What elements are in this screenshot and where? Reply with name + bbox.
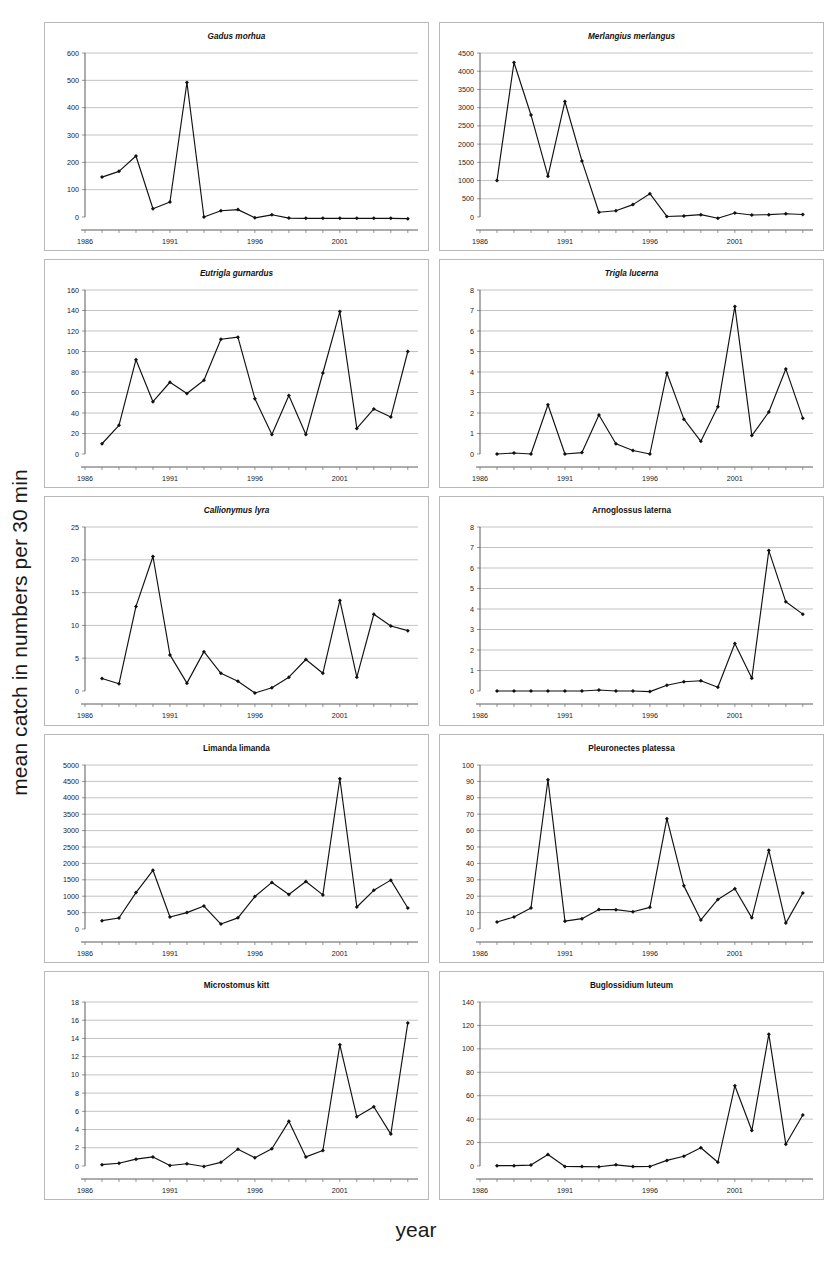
- y-tick-label: 16: [71, 1016, 79, 1025]
- y-tick-label: 80: [466, 793, 474, 802]
- series-line: [497, 307, 803, 455]
- y-tick-label: 120: [67, 327, 79, 336]
- data-point-marker: [648, 690, 652, 694]
- data-point-marker: [338, 310, 342, 314]
- y-tick-label: 0: [75, 1161, 79, 1170]
- data-point-marker: [338, 1043, 342, 1047]
- data-point-marker: [648, 905, 652, 909]
- y-tick-label: 100: [67, 185, 79, 194]
- data-point-marker: [168, 1163, 172, 1167]
- data-point-marker: [202, 1164, 206, 1168]
- y-tick-label: 20: [466, 1138, 474, 1147]
- y-tick-label: 100: [67, 347, 79, 356]
- data-point-marker: [202, 215, 206, 219]
- data-point-marker: [580, 1164, 584, 1168]
- x-tick-label: 1996: [642, 711, 658, 720]
- x-axis-label: year: [0, 1218, 832, 1242]
- y-tick-label: 12: [71, 1052, 79, 1061]
- y-tick-label: 2: [470, 409, 474, 418]
- x-tick-label: 1996: [247, 711, 263, 720]
- data-point-marker: [304, 1155, 308, 1159]
- data-point-marker: [767, 549, 771, 553]
- data-point-marker: [563, 452, 567, 456]
- chart-title: Eutrigla gurnardus: [200, 269, 274, 278]
- chart-panel: Microstomus kitt024681012141618198619911…: [44, 971, 429, 1200]
- data-point-marker: [270, 433, 274, 437]
- series-line: [102, 83, 408, 219]
- x-tick-label: 1996: [642, 949, 658, 958]
- y-tick-label: 15: [71, 589, 79, 598]
- y-tick-label: 3000: [63, 826, 79, 835]
- data-point-marker: [495, 689, 499, 693]
- y-tick-label: 0: [75, 213, 79, 222]
- data-point-marker: [733, 1084, 737, 1088]
- data-point-marker: [733, 211, 737, 215]
- chart-title: Limanda limanda: [203, 744, 270, 753]
- y-tick-label: 60: [71, 388, 79, 397]
- y-tick-label: 8: [75, 1089, 79, 1098]
- y-tick-label: 140: [67, 306, 79, 315]
- y-tick-label: 2500: [458, 121, 474, 130]
- data-point-marker: [321, 216, 325, 220]
- y-tick-label: 6: [470, 564, 474, 573]
- x-tick-label: 1991: [162, 474, 178, 483]
- data-point-marker: [682, 214, 686, 218]
- data-point-marker: [495, 920, 499, 924]
- data-point-marker: [546, 174, 550, 178]
- x-tick-label: 2001: [332, 237, 348, 246]
- data-point-marker: [168, 200, 172, 204]
- data-point-marker: [372, 216, 376, 220]
- data-point-marker: [631, 449, 635, 453]
- data-point-marker: [529, 689, 533, 693]
- data-point-marker: [134, 605, 138, 609]
- data-point-marker: [529, 452, 533, 456]
- x-tick-label: 1986: [77, 237, 93, 246]
- y-tick-label: 70: [466, 809, 474, 818]
- data-point-marker: [784, 367, 788, 371]
- y-tick-label: 0: [470, 924, 474, 933]
- data-point-marker: [767, 1032, 771, 1036]
- data-point-marker: [597, 1164, 601, 1168]
- y-tick-label: 25: [71, 523, 79, 532]
- data-point-marker: [665, 371, 669, 375]
- data-point-marker: [236, 335, 240, 339]
- x-tick-label: 1996: [247, 237, 263, 246]
- y-tick-label: 6: [470, 327, 474, 336]
- y-tick-label: 0: [75, 924, 79, 933]
- data-point-marker: [699, 679, 703, 683]
- y-tick-label: 4000: [458, 67, 474, 76]
- x-tick-label: 2001: [727, 474, 743, 483]
- y-tick-label: 1500: [458, 158, 474, 167]
- data-point-marker: [580, 451, 584, 455]
- data-point-marker: [716, 686, 720, 690]
- data-point-marker: [597, 210, 601, 214]
- data-point-marker: [767, 213, 771, 217]
- y-tick-label: 5000: [63, 760, 79, 769]
- data-point-marker: [682, 883, 686, 887]
- data-point-marker: [100, 1162, 104, 1166]
- y-tick-label: 2000: [63, 859, 79, 868]
- series-line: [102, 1023, 408, 1166]
- y-tick-label: 2000: [458, 140, 474, 149]
- x-tick-label: 2001: [332, 949, 348, 958]
- series-line: [102, 557, 408, 693]
- y-tick-label: 20: [71, 429, 79, 438]
- y-tick-label: 8: [470, 286, 474, 295]
- chart-panel: Pleuronectes platessa0102030405060708090…: [439, 734, 824, 963]
- y-tick-label: 140: [462, 997, 474, 1006]
- data-point-marker: [512, 1163, 516, 1167]
- chart-panel: Merlangius merlangus05001000150020002500…: [439, 22, 824, 251]
- data-point-marker: [219, 337, 223, 341]
- data-point-marker: [406, 350, 410, 354]
- chart-panel: Buglossidium luteum020406080100120140198…: [439, 971, 824, 1200]
- x-tick-label: 1996: [642, 237, 658, 246]
- data-point-marker: [767, 848, 771, 852]
- x-tick-label: 1986: [77, 474, 93, 483]
- y-tick-label: 0: [75, 687, 79, 696]
- data-point-marker: [750, 677, 754, 681]
- y-tick-label: 3: [470, 388, 474, 397]
- data-point-marker: [614, 1163, 618, 1167]
- data-point-marker: [321, 371, 325, 375]
- data-point-marker: [563, 689, 567, 693]
- chart-title: Microstomus kitt: [204, 981, 270, 990]
